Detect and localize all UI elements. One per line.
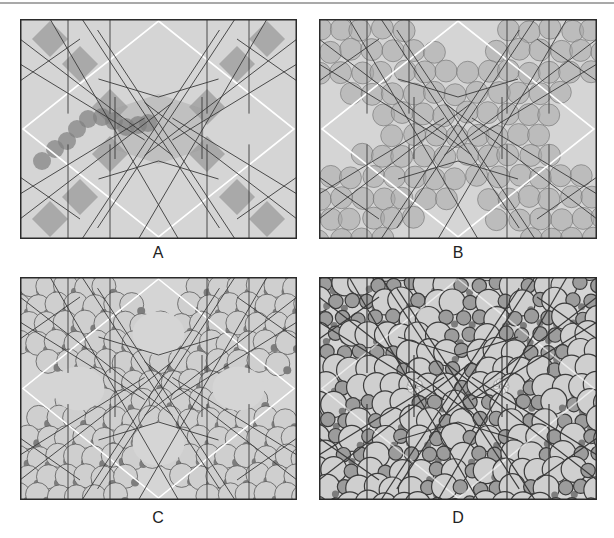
tiling-diagram bbox=[20, 277, 297, 500]
panel-c-label: C bbox=[138, 509, 178, 527]
panel-b-label: B bbox=[438, 244, 478, 262]
panel-b bbox=[319, 19, 597, 239]
tiling-diagram bbox=[20, 19, 297, 239]
tiling-diagram bbox=[319, 277, 597, 500]
panel-d bbox=[319, 277, 597, 500]
tiling-diagram bbox=[319, 19, 597, 239]
panel-c bbox=[20, 277, 297, 500]
top-rule bbox=[0, 2, 614, 4]
panel-a bbox=[20, 19, 297, 239]
panel-d-label: D bbox=[438, 509, 478, 527]
panel-a-label: A bbox=[138, 244, 178, 262]
